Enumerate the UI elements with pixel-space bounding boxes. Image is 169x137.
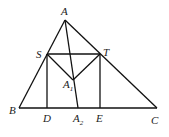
segments [19, 20, 157, 108]
segment-TA1 [73, 54, 100, 80]
label-A1: A1 [62, 78, 73, 93]
label-S: S [36, 48, 42, 60]
segment-AC [65, 20, 157, 108]
label-B: B [9, 104, 16, 116]
segment-AB [19, 20, 65, 108]
segment-SA1 [47, 54, 73, 80]
label-T: T [103, 46, 110, 58]
label-E: E [95, 112, 103, 124]
label-C: C [151, 114, 159, 126]
geometry-diagram: A S T A1 B D A2 E C [0, 0, 169, 137]
label-D: D [42, 112, 51, 124]
label-A2: A2 [72, 112, 84, 127]
label-A: A [60, 5, 68, 17]
segment-AA2 [65, 20, 78, 108]
